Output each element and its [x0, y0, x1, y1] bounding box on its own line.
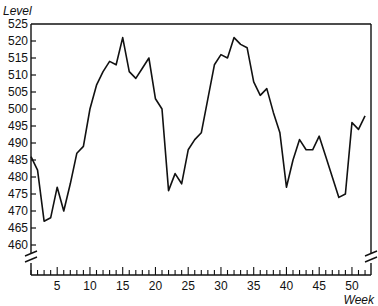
y-tick-label: 490	[8, 136, 28, 150]
y-tick-label: 485	[8, 153, 28, 167]
y-tick-label: 525	[8, 17, 28, 31]
x-tick-label: 45	[313, 279, 327, 293]
y-tick-label: 475	[8, 187, 28, 201]
level-series-line	[31, 38, 365, 222]
y-axis-title: Level	[3, 4, 32, 18]
x-tick-label: 35	[247, 279, 261, 293]
y-tick-label: 480	[8, 170, 28, 184]
y-tick-label: 515	[8, 51, 28, 65]
x-axis-title: Week	[344, 293, 375, 306]
x-tick-label: 20	[149, 279, 163, 293]
x-tick-label: 15	[116, 279, 130, 293]
y-tick-label: 510	[8, 68, 28, 82]
x-tick-label: 30	[214, 279, 228, 293]
line-chart: 4604654704754804854904955005055105155205…	[0, 0, 378, 306]
y-tick-label: 495	[8, 119, 28, 133]
y-tick-label: 470	[8, 204, 28, 218]
x-tick-label: 25	[182, 279, 196, 293]
y-tick-label: 465	[8, 221, 28, 235]
y-tick-label: 500	[8, 102, 28, 116]
y-tick-label: 520	[8, 34, 28, 48]
x-tick-label: 10	[83, 279, 97, 293]
x-tick-label: 50	[345, 279, 359, 293]
x-tick-label: 5	[54, 279, 61, 293]
x-tick-label: 40	[280, 279, 294, 293]
y-tick-label: 460	[8, 238, 28, 252]
y-tick-label: 505	[8, 85, 28, 99]
